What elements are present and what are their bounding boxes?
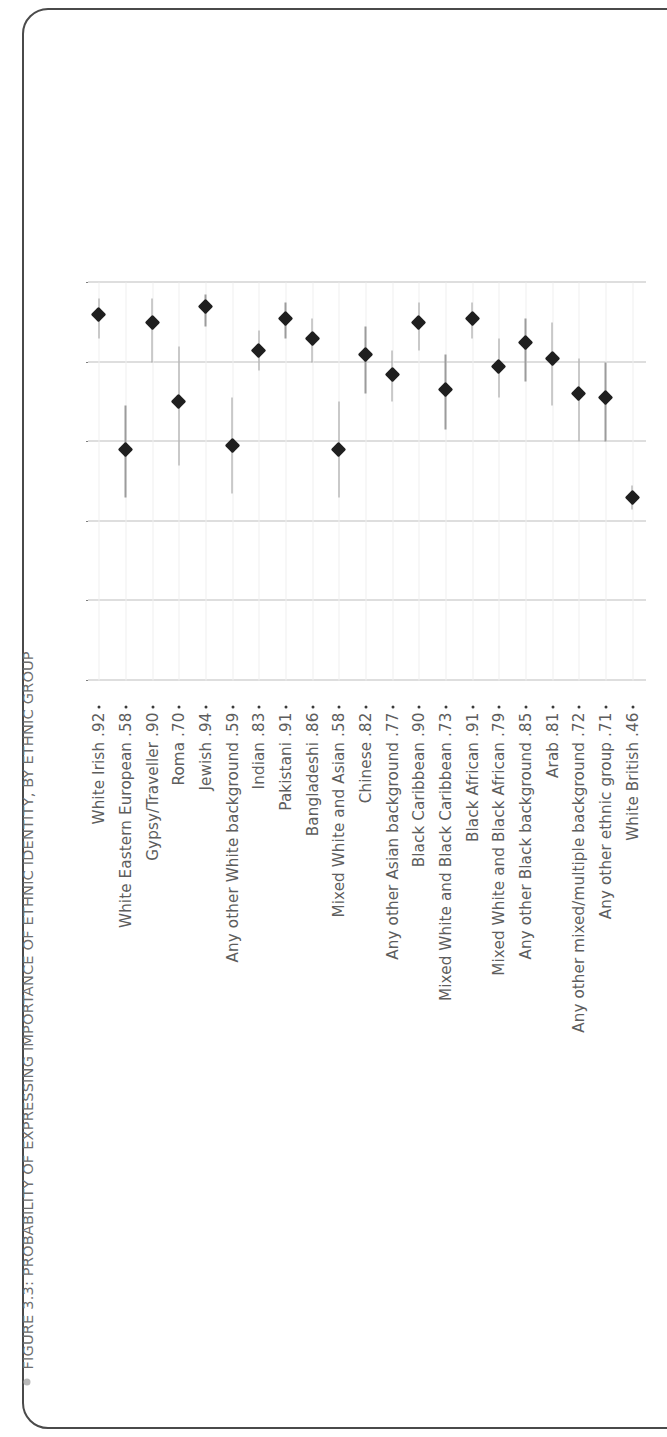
data-point-marker xyxy=(597,390,613,406)
tick-dot-icon xyxy=(337,705,340,708)
category-label: Jewish .94 xyxy=(196,705,214,790)
category-name: Mixed White and Asian xyxy=(329,736,347,917)
plot-area: 0.2.4.6.81 xyxy=(85,282,645,680)
category-value: .86 xyxy=(303,712,321,736)
category-label: White Irish .92 xyxy=(89,705,107,824)
category-gridline xyxy=(472,282,473,680)
bullet-dot-icon xyxy=(23,1378,30,1385)
data-point-marker xyxy=(251,342,267,358)
tick-dot-icon xyxy=(497,705,500,708)
category-value: .58 xyxy=(116,712,134,736)
tick-dot-icon xyxy=(124,705,127,708)
category-label: Mixed White and Black Caribbean .73 xyxy=(436,705,454,1000)
data-point-marker xyxy=(277,310,293,326)
data-point-marker xyxy=(544,350,560,366)
data-point-marker xyxy=(331,441,347,457)
category-value: .72 xyxy=(569,712,587,736)
data-point-marker xyxy=(624,489,640,505)
category-value: .77 xyxy=(383,712,401,736)
data-point-marker xyxy=(384,366,400,382)
category-label: Chinese .82 xyxy=(356,705,374,803)
category-value: .92 xyxy=(89,712,107,736)
tick-dot-icon xyxy=(231,705,234,708)
category-gridline xyxy=(445,282,446,680)
data-point-marker xyxy=(464,310,480,326)
category-label: Any other Asian background .77 xyxy=(383,705,401,959)
category-name: Chinese xyxy=(356,736,374,802)
category-name: Mixed White and Black African xyxy=(489,736,507,975)
rotated-figure: FIGURE 3.3: PROBABILITY OF EXPRESSING IM… xyxy=(0,0,667,1437)
category-value: .58 xyxy=(329,712,347,736)
category-value: .70 xyxy=(169,712,187,736)
category-value: .85 xyxy=(516,712,534,736)
category-gridline xyxy=(605,282,606,680)
category-gridline xyxy=(98,282,99,680)
category-axis-labels: White Irish .92White Eastern European .5… xyxy=(85,697,645,1437)
tick-dot-icon xyxy=(577,705,580,708)
category-name: Roma xyxy=(169,736,187,785)
category-name: White Eastern European xyxy=(116,736,134,927)
category-label: Mixed White and Black African .79 xyxy=(489,705,507,975)
category-label: Any other White background .59 xyxy=(223,705,241,962)
category-name: White British xyxy=(623,736,641,840)
tick-dot-icon xyxy=(204,705,207,708)
category-label: Mixed White and Asian .58 xyxy=(329,705,347,917)
category-value: .81 xyxy=(543,712,561,736)
category-name: Bangladeshi xyxy=(303,736,321,835)
tick-dot-icon xyxy=(97,705,100,708)
category-value: .71 xyxy=(596,712,614,736)
category-name: Arab xyxy=(543,736,561,777)
category-value: .90 xyxy=(143,712,161,736)
figure-title: FIGURE 3.3: PROBABILITY OF EXPRESSING IM… xyxy=(18,651,35,1369)
category-label: White British .46 xyxy=(623,705,641,840)
category-gridline xyxy=(285,282,286,680)
data-point-marker xyxy=(197,298,213,314)
data-point-marker xyxy=(304,330,320,346)
category-name: Any other mixed/multiple background xyxy=(569,736,587,1032)
category-value: .83 xyxy=(249,712,267,736)
category-label: Black Caribbean .90 xyxy=(409,705,427,867)
tick-dot-icon xyxy=(551,705,554,708)
category-label: Indian .83 xyxy=(249,705,267,789)
data-point-marker xyxy=(91,306,107,322)
tick-dot-icon xyxy=(391,705,394,708)
category-value: .82 xyxy=(356,712,374,736)
tick-dot-icon xyxy=(364,705,367,708)
category-label: Roma .70 xyxy=(169,705,187,785)
category-name: White Irish xyxy=(89,736,107,824)
figure-title-row: FIGURE 3.3: PROBABILITY OF EXPRESSING IM… xyxy=(18,651,35,1385)
tick-dot-icon xyxy=(284,705,287,708)
category-name: Mixed White and Black Caribbean xyxy=(436,736,454,1000)
category-gridline xyxy=(178,282,179,680)
tick-dot-icon xyxy=(524,705,527,708)
data-point-marker xyxy=(517,334,533,350)
data-point-marker xyxy=(117,441,133,457)
category-name: Pakistani xyxy=(276,736,294,810)
category-name: Any other White background xyxy=(223,736,241,961)
category-label: Gypsy/Traveller .90 xyxy=(143,705,161,860)
tick-dot-icon xyxy=(471,705,474,708)
data-point-marker xyxy=(171,394,187,410)
category-value: .59 xyxy=(223,712,241,736)
tick-dot-icon xyxy=(177,705,180,708)
category-label: White Eastern European .58 xyxy=(116,705,134,927)
category-label: Pakistani .91 xyxy=(276,705,294,810)
category-value: .73 xyxy=(436,712,454,736)
tick-dot-icon xyxy=(311,705,314,708)
category-value: .91 xyxy=(463,712,481,736)
category-value: .91 xyxy=(276,712,294,736)
category-value: .79 xyxy=(489,712,507,736)
category-gridline xyxy=(632,282,633,680)
data-point-marker xyxy=(437,382,453,398)
category-gridline xyxy=(578,282,579,680)
category-value: .94 xyxy=(196,712,214,736)
category-name: Jewish xyxy=(196,736,214,790)
category-label: Any other Black background .85 xyxy=(516,705,534,959)
category-value: .90 xyxy=(409,712,427,736)
data-point-marker xyxy=(411,314,427,330)
category-gridline xyxy=(205,282,206,680)
category-name: Any other Asian background xyxy=(383,736,401,959)
category-name: Black African xyxy=(463,736,481,841)
category-label: Black African .91 xyxy=(463,705,481,842)
tick-dot-icon xyxy=(631,705,634,708)
